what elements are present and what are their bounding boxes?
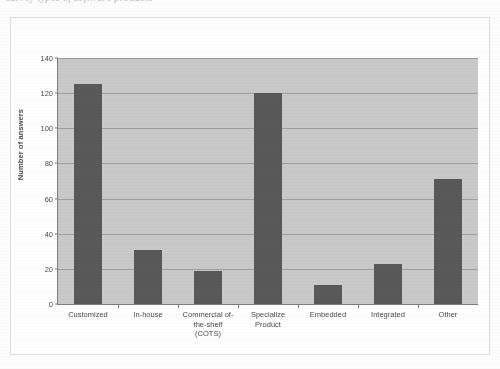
x-axis-tick-label: Other bbox=[412, 310, 484, 320]
x-axis-tick-mark bbox=[298, 304, 299, 308]
y-axis-tick-label: 140 bbox=[40, 54, 53, 63]
y-axis-tick-label: 100 bbox=[40, 124, 53, 133]
bar bbox=[374, 264, 402, 304]
y-axis-tick-mark bbox=[55, 198, 58, 199]
y-axis-title: Number of answers bbox=[16, 97, 25, 193]
x-axis-tick-mark bbox=[238, 304, 239, 308]
y-axis-tick-mark bbox=[55, 268, 58, 269]
bar bbox=[194, 271, 222, 304]
y-axis-tick-mark bbox=[55, 93, 58, 94]
gridline bbox=[58, 58, 478, 59]
bar bbox=[434, 179, 462, 304]
y-axis-tick-label: 40 bbox=[45, 229, 53, 238]
y-axis-tick-mark bbox=[55, 233, 58, 234]
x-axis-tick-label-line: (COTS) bbox=[172, 329, 244, 339]
y-axis-tick-mark bbox=[55, 304, 58, 305]
bar bbox=[314, 285, 342, 304]
y-axis-tick-mark bbox=[55, 128, 58, 129]
y-axis-tick-label: 0 bbox=[49, 300, 53, 309]
y-axis-tick-label: 20 bbox=[45, 264, 53, 273]
y-axis-tick-mark bbox=[55, 163, 58, 164]
plot-area: 020406080100120140CustomizedIn-houseComm… bbox=[57, 58, 478, 305]
y-axis-tick-label: 60 bbox=[45, 194, 53, 203]
x-axis-tick-mark bbox=[358, 304, 359, 308]
bar-chart: Number of answers 020406080100120140Cust… bbox=[0, 0, 500, 369]
y-axis-tick-label: 80 bbox=[45, 159, 53, 168]
x-axis-tick-label-line: Other bbox=[412, 310, 484, 320]
bar bbox=[134, 250, 162, 304]
bar bbox=[254, 93, 282, 304]
x-axis-tick-mark bbox=[118, 304, 119, 308]
x-axis-tick-label-line: Product bbox=[232, 320, 304, 330]
bar bbox=[74, 84, 102, 304]
x-axis-tick-mark bbox=[418, 304, 419, 308]
x-axis-tick-mark bbox=[178, 304, 179, 308]
y-axis-tick-label: 120 bbox=[40, 89, 53, 98]
y-axis-tick-mark bbox=[55, 58, 58, 59]
